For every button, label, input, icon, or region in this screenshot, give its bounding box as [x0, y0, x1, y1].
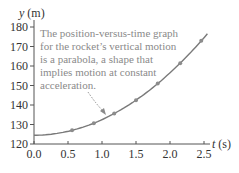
x-axis-title: t (s) [212, 137, 231, 151]
x-tick-label: 0.0 [27, 147, 42, 161]
x-tick-label: 0.5 [61, 147, 76, 161]
y-tick-label: 160 [10, 59, 28, 73]
data-point [92, 121, 96, 125]
data-point [70, 128, 74, 132]
y-tick-label: 120 [10, 137, 28, 151]
y-tick-label: 150 [10, 79, 28, 93]
x-tick-label: 1.0 [95, 147, 110, 161]
y-tick-label: 130 [10, 118, 28, 132]
position-time-chart: 120130140150160170180 y (m) 0.00.51.01.5… [0, 0, 239, 173]
data-point [156, 82, 160, 86]
y-tick-label: 170 [10, 40, 28, 54]
data-point [199, 39, 203, 43]
annotation-text: The position-versus-time graphfor the ro… [40, 27, 179, 91]
x-tick-label: 1.5 [129, 147, 144, 161]
annotation: The position-versus-time graphfor the ro… [40, 27, 179, 115]
x-tick-label: 2.5 [197, 147, 212, 161]
x-axis: 0.00.51.01.52.02.5 t (s) [27, 137, 232, 161]
data-point [178, 61, 182, 65]
y-axis-title: y (m) [18, 6, 45, 20]
data-point [134, 98, 138, 102]
data-point [112, 112, 116, 116]
y-tick-label: 140 [10, 98, 28, 112]
dotted-arrow-icon [88, 92, 104, 112]
x-tick-label: 2.0 [163, 147, 178, 161]
y-tick-label: 180 [10, 20, 28, 34]
